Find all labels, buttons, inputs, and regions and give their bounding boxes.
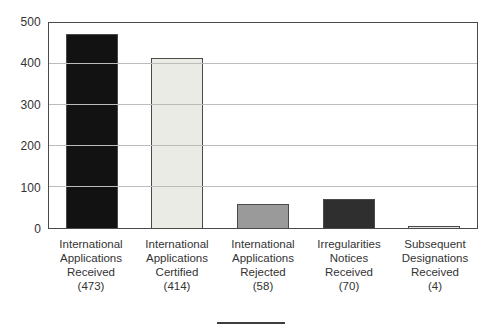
x-label-1: InternationalApplicationsReceived(473) <box>48 237 134 293</box>
x-label-line: (473) <box>48 279 134 293</box>
x-label-line: International <box>48 237 134 251</box>
bottom-divider <box>217 322 285 324</box>
x-label-line: International <box>220 237 306 251</box>
x-label-line: Rejected <box>220 265 306 279</box>
bar-3-international-applications-rejected <box>237 204 289 228</box>
x-label-line: Certified <box>134 265 220 279</box>
x-label-line: Received <box>392 265 478 279</box>
y-tick-label-500: 500 <box>20 16 41 28</box>
x-label-5: SubsequentDesignationsReceived(4) <box>392 237 478 293</box>
gridline-100 <box>49 186 477 187</box>
x-label-2: InternationalApplicationsCertified(414) <box>134 237 220 293</box>
bar-4-irregularities-notices-received <box>323 199 375 228</box>
x-label-4: IrregularitiesNoticesReceived(70) <box>306 237 392 293</box>
gridline-200 <box>49 145 477 146</box>
bar-5-subsequent-designations-received <box>408 226 460 228</box>
y-axis: 0100200300400500 <box>0 22 41 229</box>
x-label-line: Received <box>48 265 134 279</box>
bar-chart: 0100200300400500 InternationalApplicatio… <box>0 0 499 335</box>
x-label-line: Subsequent <box>392 237 478 251</box>
x-label-line: Applications <box>134 251 220 265</box>
gridline-400 <box>49 63 477 64</box>
x-axis-labels: InternationalApplicationsReceived(473)In… <box>48 237 478 293</box>
y-tick-label-300: 300 <box>20 99 41 111</box>
bar-2-international-applications-certified <box>151 58 203 228</box>
x-label-line: Applications <box>48 251 134 265</box>
x-label-line: Irregularities <box>306 237 392 251</box>
x-label-line: Designations <box>392 251 478 265</box>
x-label-3: InternationalApplicationsRejected(58) <box>220 237 306 293</box>
x-label-line: International <box>134 237 220 251</box>
y-tick-label-0: 0 <box>34 223 41 235</box>
plot-area <box>48 22 478 229</box>
x-label-line: (414) <box>134 279 220 293</box>
x-label-line: Applications <box>220 251 306 265</box>
y-tick-label-400: 400 <box>20 57 41 69</box>
x-label-line: Notices <box>306 251 392 265</box>
y-tick-label-200: 200 <box>20 140 41 152</box>
x-label-line: (70) <box>306 279 392 293</box>
x-label-line: (4) <box>392 279 478 293</box>
x-label-line: (58) <box>220 279 306 293</box>
y-tick-label-100: 100 <box>20 182 41 194</box>
bars-layer <box>49 23 477 228</box>
x-label-line: Received <box>306 265 392 279</box>
gridline-300 <box>49 104 477 105</box>
